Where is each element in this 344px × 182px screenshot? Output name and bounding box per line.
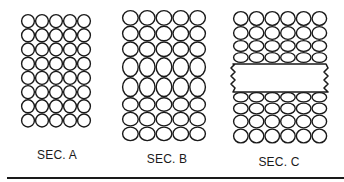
cell-circle bbox=[265, 129, 280, 143]
cell-circle bbox=[78, 15, 91, 28]
cell-circle bbox=[36, 57, 49, 70]
cell-circle bbox=[281, 93, 296, 102]
cell-circle bbox=[234, 115, 249, 128]
cell-circle bbox=[139, 112, 155, 126]
cell-circle bbox=[50, 15, 63, 28]
section-a-label: SEC. A bbox=[37, 148, 77, 162]
cell-circle bbox=[249, 53, 264, 63]
cell-circle bbox=[281, 41, 296, 52]
cell-circle bbox=[173, 78, 189, 97]
cell-circle bbox=[123, 98, 139, 112]
cell-circle bbox=[22, 100, 35, 113]
cell-circle bbox=[281, 115, 296, 128]
cell-circle bbox=[265, 93, 280, 102]
cell-circle bbox=[265, 115, 280, 128]
cell-circle bbox=[296, 93, 311, 102]
cell-circle bbox=[156, 58, 172, 77]
cell-circle bbox=[50, 71, 63, 84]
section-a-cells bbox=[22, 15, 91, 127]
cell-circle bbox=[36, 43, 49, 56]
cell-circle bbox=[190, 42, 206, 57]
cell-circle bbox=[249, 41, 264, 52]
baseline-rule bbox=[7, 177, 344, 179]
cell-circle bbox=[312, 103, 327, 114]
cell-circle bbox=[78, 43, 91, 56]
cell-circle bbox=[265, 103, 280, 114]
cell-circle bbox=[64, 100, 77, 113]
cell-circle bbox=[78, 86, 91, 99]
cell-circle bbox=[139, 26, 155, 41]
cell-circle bbox=[78, 57, 91, 70]
cell-circle bbox=[50, 43, 63, 56]
cell-circle bbox=[249, 115, 264, 128]
cell-circle bbox=[190, 98, 206, 112]
cell-circle bbox=[78, 100, 91, 113]
cell-circle bbox=[156, 127, 172, 141]
section-b-cells bbox=[123, 11, 206, 141]
cell-circle bbox=[281, 12, 296, 26]
cell-circle bbox=[64, 43, 77, 56]
cell-circle bbox=[156, 98, 172, 112]
cell-circle bbox=[123, 26, 139, 41]
cell-circle bbox=[190, 11, 206, 26]
cell-circle bbox=[78, 114, 91, 127]
cell-circle bbox=[64, 29, 77, 42]
cell-circle bbox=[50, 57, 63, 70]
section-c-cells bbox=[231, 12, 328, 143]
cell-circle bbox=[50, 100, 63, 113]
cell-circle bbox=[190, 112, 206, 126]
cell-circle bbox=[249, 129, 264, 143]
section-b-label: SEC. B bbox=[147, 152, 188, 166]
cell-circle bbox=[139, 127, 155, 141]
cell-circle bbox=[36, 15, 49, 28]
cell-circle bbox=[22, 43, 35, 56]
cell-circle bbox=[78, 71, 91, 84]
cell-circle bbox=[312, 27, 327, 40]
cell-circle bbox=[123, 58, 139, 77]
cell-circle bbox=[36, 114, 49, 127]
cell-circle bbox=[249, 93, 264, 102]
cell-circle bbox=[312, 93, 327, 102]
cell-circle bbox=[234, 103, 249, 114]
cell-circle bbox=[173, 11, 189, 26]
cell-circle bbox=[173, 127, 189, 141]
cell-circle bbox=[64, 71, 77, 84]
cell-circle bbox=[265, 12, 280, 26]
cell-circle bbox=[173, 42, 189, 57]
cell-circle bbox=[296, 12, 311, 26]
cell-circle bbox=[123, 11, 139, 26]
cell-circle bbox=[265, 41, 280, 52]
cell-circle bbox=[296, 53, 311, 63]
cell-circle bbox=[296, 27, 311, 40]
cell-circle bbox=[156, 78, 172, 97]
cell-circle bbox=[296, 103, 311, 114]
cell-circle bbox=[156, 112, 172, 126]
cell-circle bbox=[312, 12, 327, 26]
cell-circle bbox=[281, 129, 296, 143]
cell-circle bbox=[139, 78, 155, 97]
cell-circle bbox=[139, 98, 155, 112]
cell-circle bbox=[139, 42, 155, 57]
cell-circle bbox=[64, 86, 77, 99]
cell-circle bbox=[123, 42, 139, 57]
cell-circle bbox=[50, 114, 63, 127]
cell-circle bbox=[234, 12, 249, 26]
cell-circle bbox=[190, 127, 206, 141]
cell-circle bbox=[190, 58, 206, 77]
cell-circle bbox=[22, 15, 35, 28]
cell-circle bbox=[36, 29, 49, 42]
cell-circle bbox=[249, 103, 264, 114]
cell-circle bbox=[281, 27, 296, 40]
cell-circle bbox=[234, 93, 249, 102]
cell-circle bbox=[190, 26, 206, 41]
cell-circle bbox=[50, 86, 63, 99]
cell-circle bbox=[139, 58, 155, 77]
section-c-label: SEC. C bbox=[258, 155, 299, 169]
cell-circle bbox=[234, 41, 249, 52]
cell-circle bbox=[173, 98, 189, 112]
cell-circle bbox=[123, 78, 139, 97]
cell-circle bbox=[78, 29, 91, 42]
cell-circle bbox=[173, 112, 189, 126]
cell-circle bbox=[36, 71, 49, 84]
cell-circle bbox=[64, 57, 77, 70]
